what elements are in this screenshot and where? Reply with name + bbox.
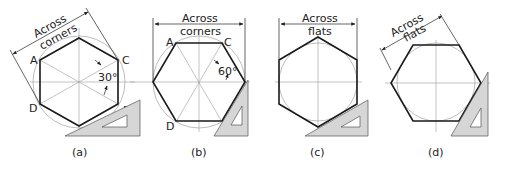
vertex-label-d: D [166,120,174,133]
dimension-label: Across [302,12,338,25]
angle-label: 30° [98,71,118,84]
panel-d: Across flats (d) [380,11,490,159]
vertex-label-c: C [224,36,232,49]
caption-d: (d) [428,146,444,159]
caption-c: (c) [310,146,325,159]
angle-label: 60° [218,65,238,78]
dimension-label: corners [180,25,221,38]
vertex-label-d: D [29,102,37,115]
drafting-triangle [214,80,248,136]
caption-a: (a) [72,146,87,159]
hexagon-construction-figure: Across corners A C D B 30° (a) Across co… [0,0,519,171]
panel-a: Across corners A C D B 30° (a) [10,8,140,159]
panel-c: Across flats (c) [275,12,368,159]
vertex-label-a: A [30,54,38,67]
vertex-label-a: A [166,36,174,49]
vertex-label-c: C [122,54,130,67]
drafting-triangle [65,100,140,136]
dimension-label: Across [182,12,218,25]
drafting-triangle [451,72,488,136]
dimension-label: flats [308,25,332,38]
caption-b: (b) [191,146,207,159]
panel-b: Across corners A C D B 60° (b) [130,12,250,159]
